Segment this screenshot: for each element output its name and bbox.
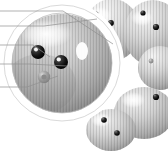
- papilla-dark-center: [54, 55, 68, 69]
- papilla-lower-left-a: [101, 117, 107, 123]
- papilla-lower-left-b: [114, 130, 120, 136]
- papilla-upper-right-a: [140, 10, 145, 15]
- papilla-gray-lower: [38, 71, 50, 83]
- papilla-upper-right-b: [153, 24, 159, 30]
- papilla-right-middle-a: [149, 59, 154, 64]
- figure-canvas: [0, 0, 168, 152]
- microscopy-figure: g: [0, 0, 168, 152]
- papilla-lower-right-a: [153, 94, 159, 100]
- specular-highlight-main: [76, 42, 88, 60]
